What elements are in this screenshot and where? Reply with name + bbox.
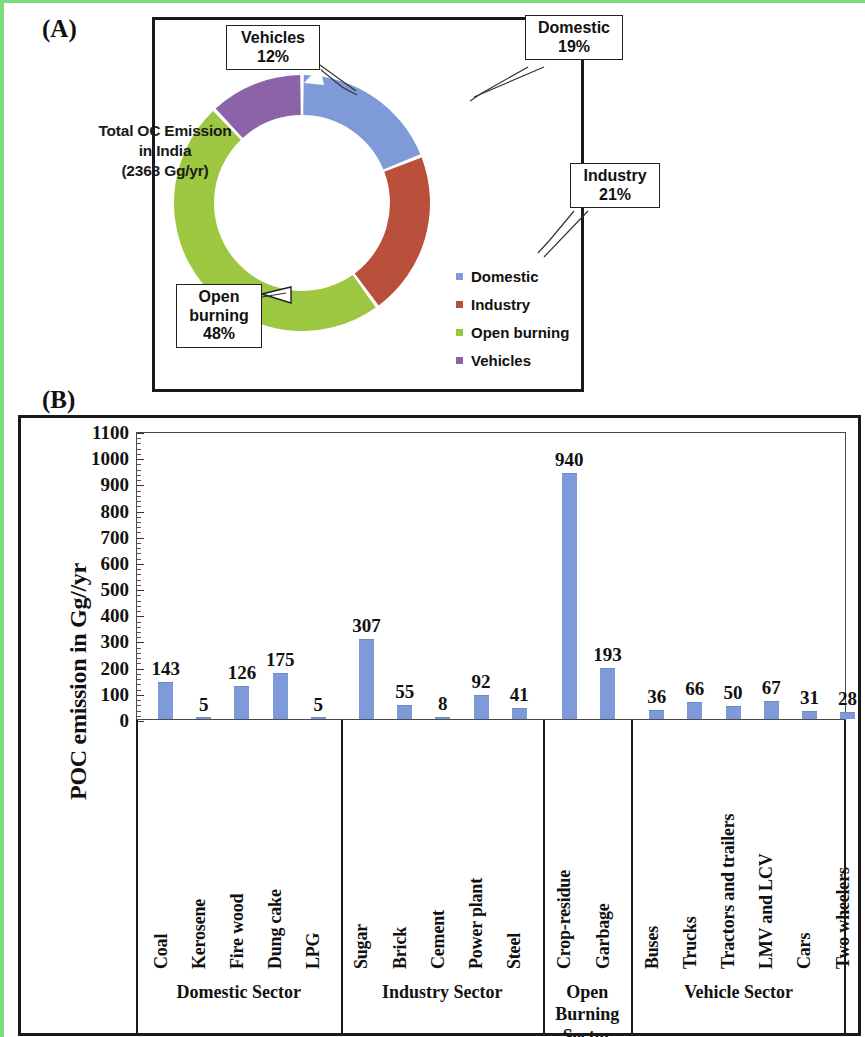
y-tick-label: 700 [101, 527, 130, 549]
y-minor-tick [137, 690, 141, 691]
y-minor-tick [137, 663, 141, 664]
bar-lpg [311, 717, 326, 719]
y-minor-tick [137, 705, 141, 706]
callout-open-burning-l1: Open [182, 288, 256, 307]
y-tick-label: 800 [101, 501, 130, 523]
y-minor-tick [137, 700, 141, 701]
callout-industry-name: Industry [576, 167, 654, 186]
sector-label-line: Burning [555, 1004, 619, 1026]
sector-label-line: Industry Sector [382, 982, 503, 1004]
y-tick-mark [137, 642, 144, 643]
y-tick-mark [137, 669, 144, 670]
y-minor-tick [137, 491, 141, 492]
bar-cars [802, 711, 817, 719]
callout-vehicles: Vehicles 12% [226, 25, 320, 70]
bar-kerosene [196, 717, 211, 719]
callout-leader-lines [4, 3, 865, 403]
bar-value-label: 28 [838, 688, 857, 710]
category-label-kerosene: Kerosene [189, 899, 210, 969]
y-tick-label: 100 [101, 684, 130, 706]
category-label-fire-wood: Fire wood [227, 894, 248, 969]
bar-value-label: 5 [199, 694, 209, 716]
y-minor-tick [137, 658, 141, 659]
y-tick-label: 0 [120, 710, 130, 732]
y-minor-tick [137, 653, 141, 654]
y-tick-label: 400 [101, 605, 130, 627]
callout-vehicles-name: Vehicles [232, 29, 314, 48]
y-tick-label: 500 [101, 579, 130, 601]
bar-plot-area: 0100200300400500600700800900100011001435… [136, 432, 846, 720]
y-tick-mark [137, 538, 144, 539]
category-label-coal: Coal [151, 934, 172, 969]
bar-value-label: 8 [438, 693, 448, 715]
bar-value-label: 67 [762, 677, 781, 699]
y-minor-tick [137, 553, 141, 554]
y-tick-label: 1000 [91, 448, 129, 470]
callout-domestic-name: Domestic [531, 19, 617, 38]
bar-value-label: 5 [314, 694, 324, 716]
bar-crop-residue [562, 473, 577, 719]
sector-bottom-rule [136, 1034, 846, 1036]
bar-dung-cake [273, 673, 288, 719]
y-minor-tick [137, 622, 141, 623]
sector-divider [631, 720, 633, 1036]
y-minor-tick [137, 532, 141, 533]
sector-label-vehicle-sector: Vehicle Sector [631, 975, 846, 1036]
y-tick-label: 1100 [92, 422, 129, 444]
y-minor-tick [137, 470, 141, 471]
y-minor-tick [137, 522, 141, 523]
category-label-cars: Cars [794, 933, 815, 969]
bar-trucks [687, 702, 702, 719]
y-minor-tick [137, 606, 141, 607]
category-label-lmv-and-lcv: LMV and LCV [756, 854, 777, 970]
category-label-buses: Buses [642, 926, 663, 969]
callout-open-burning-l2: burning [182, 307, 256, 326]
y-tick-label: 600 [101, 553, 130, 575]
callout-industry-pct: 21% [576, 186, 654, 205]
y-minor-tick [137, 475, 141, 476]
y-minor-tick [137, 454, 141, 455]
y-minor-tick [137, 506, 141, 507]
bar-fire-wood [234, 686, 249, 719]
callout-open-burning-pct: 48% [182, 325, 256, 344]
sector-divider-left [136, 720, 138, 1036]
bar-cement [435, 717, 450, 719]
bar-garbage [600, 668, 615, 719]
y-minor-tick [137, 443, 141, 444]
bar-buses [649, 710, 664, 719]
y-axis-label: POC emission in Gg//yr [65, 532, 92, 832]
y-tick-label: 900 [101, 474, 130, 496]
category-label-power-plant: Power plant [466, 878, 487, 969]
y-minor-tick [137, 527, 141, 528]
y-minor-tick [137, 684, 141, 685]
y-minor-tick [137, 716, 141, 717]
bar-value-label: 92 [472, 671, 491, 693]
sector-label-domestic-sector: Domestic Sector [136, 975, 341, 1036]
callout-industry: Industry 21% [570, 163, 660, 208]
y-minor-tick [137, 574, 141, 575]
bar-value-label: 143 [151, 658, 180, 680]
y-minor-tick [137, 548, 141, 549]
y-tick-label: 300 [101, 631, 130, 653]
category-label-garbage: Garbage [593, 903, 614, 969]
category-label-crop-residue: Crop-residue [554, 870, 575, 969]
y-minor-tick [137, 648, 141, 649]
y-minor-tick [137, 585, 141, 586]
bar-value-label: 940 [555, 449, 584, 471]
y-minor-tick [137, 496, 141, 497]
y-minor-tick [137, 679, 141, 680]
category-label-lpg: LPG [303, 933, 324, 969]
bar-brick [397, 705, 412, 719]
bar-steel [512, 708, 527, 719]
category-label-steel: Steel [504, 933, 525, 969]
bar-sugar [359, 639, 374, 719]
panel-b-frame: POC emission in Gg//yr 01002003004005006… [18, 415, 861, 1036]
sector-divider [341, 720, 343, 1036]
sector-label-line: Vehicle Sector [684, 982, 793, 1004]
y-minor-tick [137, 627, 141, 628]
y-minor-tick [137, 674, 141, 675]
callout-open-burning: Open burning 48% [176, 284, 262, 348]
bar-power-plant [474, 695, 489, 719]
bar-tractors-and-trailers [726, 706, 741, 719]
bar-value-label: 193 [593, 644, 622, 666]
